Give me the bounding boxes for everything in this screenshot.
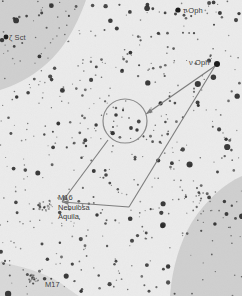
star <box>169 166 172 169</box>
star <box>86 235 88 237</box>
star <box>102 177 104 179</box>
star <box>173 62 174 63</box>
star <box>235 94 240 99</box>
star <box>1 120 2 121</box>
star <box>215 11 216 12</box>
star <box>193 32 195 34</box>
star <box>93 103 94 104</box>
star <box>118 4 120 6</box>
star <box>202 192 204 194</box>
star <box>196 206 198 208</box>
star <box>200 213 202 215</box>
star <box>147 12 148 13</box>
star <box>98 287 101 290</box>
star <box>111 185 112 186</box>
star <box>167 46 169 48</box>
star <box>21 42 23 44</box>
star <box>190 164 192 166</box>
star <box>109 169 110 170</box>
cluster-star <box>30 274 32 276</box>
cluster-star <box>48 200 50 202</box>
star <box>80 123 81 124</box>
star <box>90 88 91 89</box>
star <box>162 268 165 271</box>
star <box>139 216 140 217</box>
star <box>43 133 45 135</box>
star <box>108 18 113 23</box>
star <box>142 156 143 157</box>
star <box>185 194 187 196</box>
cluster-star <box>42 209 44 211</box>
star <box>79 290 82 293</box>
star <box>83 249 85 251</box>
star <box>99 97 101 99</box>
star <box>59 263 60 264</box>
star <box>42 7 43 8</box>
star <box>131 265 132 266</box>
star <box>182 235 183 236</box>
star <box>211 254 213 256</box>
star <box>26 273 29 276</box>
star <box>121 193 122 194</box>
star <box>197 191 200 194</box>
star <box>221 16 223 18</box>
star <box>102 235 103 236</box>
star <box>75 5 78 8</box>
star <box>167 118 168 119</box>
cluster-star <box>33 275 34 276</box>
star <box>191 293 193 295</box>
star <box>80 157 83 160</box>
star <box>174 13 177 16</box>
star <box>215 191 217 193</box>
star <box>202 279 204 281</box>
star <box>100 138 101 139</box>
star <box>164 152 166 154</box>
star <box>3 197 5 199</box>
star <box>44 47 45 48</box>
star <box>218 11 222 15</box>
star <box>33 20 34 21</box>
star <box>0 38 4 42</box>
star <box>141 275 144 278</box>
star <box>172 199 173 200</box>
star <box>213 161 214 162</box>
star <box>168 213 170 215</box>
star <box>7 50 8 51</box>
star <box>51 145 55 149</box>
star <box>130 138 131 139</box>
star <box>151 63 152 64</box>
star <box>48 74 52 78</box>
star <box>195 195 197 197</box>
star <box>217 127 221 131</box>
star <box>49 3 54 8</box>
star <box>153 130 154 131</box>
star <box>41 243 44 246</box>
star <box>23 178 24 179</box>
star <box>105 63 106 64</box>
star <box>104 173 108 177</box>
star <box>4 44 5 45</box>
star <box>200 200 202 202</box>
cluster-star <box>49 204 50 205</box>
star <box>240 236 241 237</box>
label-tau-oph: τ Oph <box>183 6 203 15</box>
star <box>203 210 204 211</box>
star <box>60 88 65 93</box>
star <box>223 217 224 218</box>
star <box>56 122 60 126</box>
star <box>143 230 144 231</box>
star <box>71 262 74 265</box>
star <box>56 136 57 137</box>
star <box>93 196 95 198</box>
label-m17: M17 <box>45 280 60 289</box>
star <box>122 58 125 61</box>
star <box>95 65 98 68</box>
star <box>143 284 145 286</box>
star <box>48 154 49 155</box>
star <box>144 5 150 11</box>
star <box>190 255 191 256</box>
star <box>83 138 87 142</box>
cluster-star <box>38 208 39 209</box>
star <box>29 84 30 85</box>
label-zeta-sct: ζ Sct <box>9 33 26 42</box>
